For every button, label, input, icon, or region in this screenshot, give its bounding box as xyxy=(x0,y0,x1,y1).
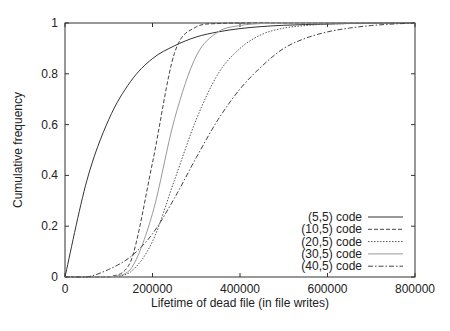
x-tick-label: 600000 xyxy=(307,282,347,296)
y-tick-label: 0.6 xyxy=(41,118,58,132)
y-tick-label: 0 xyxy=(51,270,58,284)
y-tick-label: 0.2 xyxy=(41,219,58,233)
series-line xyxy=(65,23,415,277)
series-line xyxy=(65,23,415,277)
series-line xyxy=(65,23,415,277)
series-line xyxy=(65,23,415,277)
cdf-chart: 00.20.40.60.81 0200000400000600000800000… xyxy=(0,0,450,331)
x-axis-label: Lifetime of dead file (in file writes) xyxy=(151,296,329,310)
x-axis: 0200000400000600000800000 xyxy=(62,23,436,296)
x-tick-label: 800000 xyxy=(395,282,435,296)
y-tick-label: 0.8 xyxy=(41,67,58,81)
y-tick-label: 1 xyxy=(51,16,58,30)
legend-label: (40,5) code xyxy=(301,259,362,273)
y-tick-label: 0.4 xyxy=(41,168,58,182)
plot-frame xyxy=(65,23,415,277)
y-axis-label: Cumulative frequency xyxy=(11,92,25,208)
x-tick-label: 0 xyxy=(62,282,69,296)
x-tick-label: 400000 xyxy=(220,282,260,296)
series-line xyxy=(65,23,415,277)
series-lines xyxy=(65,23,415,277)
legend: (5,5) code(10,5) code(20,5) code(30,5) c… xyxy=(301,210,403,273)
x-tick-label: 200000 xyxy=(132,282,172,296)
